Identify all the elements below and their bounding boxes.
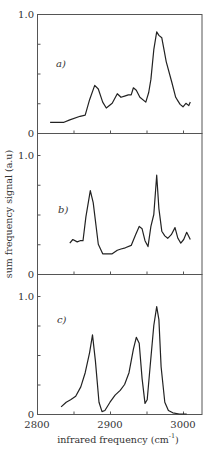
y-axis-title: sum frequency signal (a.u) <box>3 150 14 278</box>
panel-a-label: a) <box>56 58 66 69</box>
panel-a-y-zero-label: 0 <box>28 128 34 139</box>
spectra-curves <box>50 32 190 414</box>
x-tick-label-2900: 2900 <box>97 419 122 430</box>
curve-panel-c <box>61 307 187 414</box>
panel-c-label: c) <box>57 314 67 325</box>
x-axis-title-close: ) <box>175 434 179 445</box>
x-axis-title: infrared frequency (cm-1) <box>57 432 179 445</box>
panel-a-y-max-label: 1.0 <box>18 9 34 20</box>
curve-panel-a <box>50 32 190 122</box>
panel-c-frame <box>38 275 203 415</box>
sfg-spectra-figure: 1.0 0 1.0 0 1.0 0 a) b) c) 2800 2900 300… <box>0 0 205 450</box>
curve-panel-b <box>70 175 191 254</box>
x-tick-label-3000: 3000 <box>170 419 195 430</box>
panel-c-y-max-label: 1.0 <box>18 291 34 302</box>
panel-b-y-max-label: 1.0 <box>18 150 34 161</box>
panel-b-y-zero-label: 0 <box>28 269 34 280</box>
x-axis-title-main: infrared frequency (cm <box>57 434 169 445</box>
panel-b-label: b) <box>58 204 68 215</box>
panel-a-frame <box>38 15 203 134</box>
x-tick-label-2800: 2800 <box>24 419 49 430</box>
